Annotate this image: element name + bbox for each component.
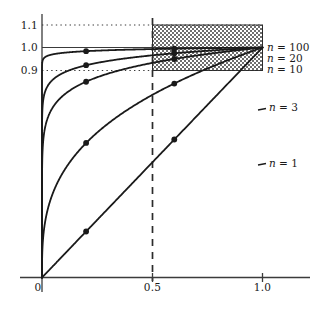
marker-points-group <box>83 46 177 235</box>
series-label-n-1-text: n = 1 <box>269 157 298 169</box>
marker-point <box>83 229 89 235</box>
leader-line-n-1 <box>258 164 266 166</box>
x-tick-label-0: 0 <box>28 281 48 293</box>
legend-leader-lines <box>258 109 266 166</box>
marker-point <box>83 48 89 54</box>
marker-point <box>171 137 177 143</box>
y-tick-label-1.0: 1.0 <box>6 41 38 53</box>
marker-point <box>171 50 177 56</box>
marker-point <box>171 56 177 62</box>
marker-point <box>83 62 89 68</box>
x-tick-label-1.0: 1.0 <box>246 281 279 293</box>
series-label-n-3-text: n = 3 <box>269 101 298 113</box>
marker-point <box>83 79 89 85</box>
chart-figure: 1.1 1.0 0.9 0 0.5 1.0 n = 100 n = 20 n =… <box>0 0 321 312</box>
leader-line-n-3 <box>258 109 266 111</box>
x-tick-label-0.5: 0.5 <box>136 281 169 293</box>
series-label-n-1: n = 1 <box>269 157 298 169</box>
y-tick-label-1.1: 1.1 <box>6 19 38 31</box>
y-tick-label-0.9: 0.9 <box>6 64 38 76</box>
series-label-n-10-text: n = 10 <box>267 63 303 75</box>
series-label-n-3: n = 3 <box>269 101 298 113</box>
series-label-n-10: n = 10 <box>267 63 303 75</box>
marker-point <box>171 81 177 87</box>
marker-point <box>83 140 89 146</box>
